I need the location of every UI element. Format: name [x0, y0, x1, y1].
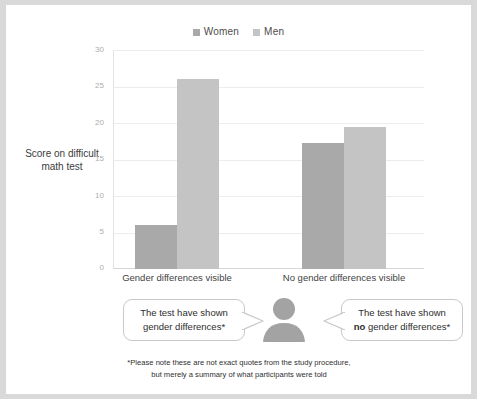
bar-women-no-gender-differences-visible[interactable]: [302, 143, 344, 269]
gridline-20: [114, 123, 424, 124]
y-tick-30: 30: [95, 46, 104, 54]
bar-men-gender-differences-visible[interactable]: [177, 79, 219, 269]
bar-women-gender-differences-visible[interactable]: [135, 225, 177, 269]
chart-footnote: *Please note these are not exact quotes …: [84, 357, 394, 380]
gridline-30: [114, 50, 424, 51]
y-tick-15: 15: [95, 155, 104, 163]
callout-right-line2-bold: no: [354, 321, 366, 332]
person-icon: [260, 296, 308, 342]
callout-right-line2-rest: gender differences*: [365, 321, 450, 332]
callout-left-line2: gender differences*: [143, 321, 225, 332]
plot-area: [114, 50, 424, 269]
y-axis-ticks: 30 25 20 15 10 5 0: [66, 50, 110, 269]
callout-left-line1: The test have shown: [140, 307, 228, 318]
bar-men-no-gender-differences-visible[interactable]: [344, 127, 386, 269]
x-axis-labels: Gender differences visible No gender dif…: [114, 272, 424, 288]
footnote-line2: but merely a summary of what participant…: [84, 369, 394, 381]
callout-bubble-right: The test have shown no gender difference…: [341, 299, 463, 341]
legend-swatch-women: [193, 29, 200, 36]
chart-card: Women Men Score on difficult math test 3…: [6, 5, 471, 394]
y-tick-25: 25: [95, 82, 104, 90]
legend-label-women: Women: [204, 27, 239, 37]
chart-legend: Women Men: [6, 27, 471, 37]
footnote-line1: *Please note these are not exact quotes …: [84, 357, 394, 369]
x-label-group-2: No gender differences visible: [244, 272, 444, 284]
y-tick-20: 20: [95, 119, 104, 127]
callout-bubble-left: The test have shown gender differences*: [123, 299, 245, 341]
y-tick-0: 0: [100, 264, 104, 272]
y-tick-5: 5: [100, 228, 104, 236]
legend-entry-women: Women: [193, 27, 239, 37]
legend-swatch-men: [253, 29, 260, 36]
gridline-25: [114, 87, 424, 88]
legend-entry-men: Men: [253, 27, 284, 37]
legend-label-men: Men: [264, 27, 284, 37]
y-tick-10: 10: [95, 192, 104, 200]
callout-tail-right: [323, 312, 345, 330]
callout-right-line1: The test have shown: [358, 307, 446, 318]
